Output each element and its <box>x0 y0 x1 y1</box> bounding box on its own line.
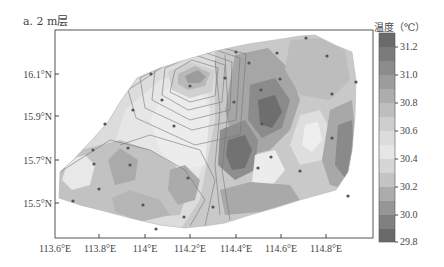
x-tick-label: 114.8°E <box>310 243 342 254</box>
contour-map: 16.1°N 15.9°N 15.7°N 15.5°N 113.6°E 113.… <box>0 0 444 267</box>
x-tick-label: 113.6°E <box>39 243 71 254</box>
colorbar-tick-label: 30.6 <box>400 125 418 136</box>
colorbar <box>379 33 398 242</box>
colorbar-tick-label: 30.2 <box>400 181 418 192</box>
colorbar-tick-label: 29.8 <box>400 236 418 247</box>
colorbar-tick-label: 30.8 <box>400 97 418 108</box>
y-tick-label: 16.1°N <box>23 69 52 80</box>
y-tick-label: 15.9°N <box>23 111 52 122</box>
x-tick-label: 114.4°E <box>220 243 252 254</box>
x-tick-label: 114°E <box>133 243 158 254</box>
x-tick-label: 114.6°E <box>265 243 297 254</box>
y-tick-label: 15.7°N <box>23 155 52 166</box>
colorbar-tick-label: 30.4 <box>400 153 418 164</box>
colorbar-tick-label: 31.2 <box>400 41 418 52</box>
x-tick-label: 114.2°E <box>174 243 206 254</box>
x-tick-label: 113.8°E <box>84 243 116 254</box>
colorbar-tick-label: 30.0 <box>400 209 418 220</box>
colorbar-tick-label: 31.0 <box>400 69 418 80</box>
y-tick-label: 15.5°N <box>23 198 52 209</box>
